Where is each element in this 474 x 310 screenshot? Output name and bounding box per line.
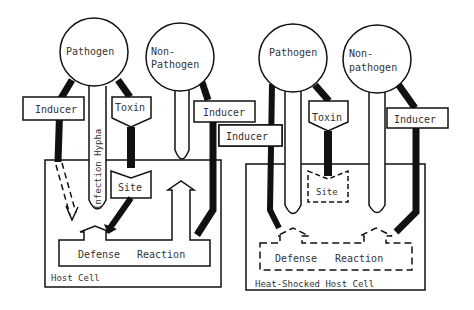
nonpathogen-circle-right — [343, 25, 411, 93]
pathogen-label-right: Pathogen — [269, 47, 317, 58]
inducer-label-right: Inducer — [203, 107, 245, 118]
nonpathogen-stalk-left — [175, 88, 189, 159]
defense-label-right: Defense — [275, 253, 317, 264]
heat-shocked-cell-label: Heat-Shocked Host Cell — [255, 279, 374, 289]
nonpathogen-label-right-1: Non- — [349, 48, 373, 59]
site-label-left: Site — [118, 182, 142, 193]
nonpathogen-circle-left — [146, 23, 214, 91]
pathogen-circle-right — [259, 24, 327, 92]
inducer-label-middle-overlay: Inducer — [226, 131, 268, 142]
toxin-label-right: Toxin — [312, 112, 342, 123]
reaction-label-right: Reaction — [335, 253, 383, 264]
left-panel: Infection Hypha Pathogen Non- Pathogen I… — [23, 18, 255, 287]
nonpathogen-label-right-2: pathogen — [349, 62, 397, 73]
site-label-right: Site — [316, 187, 338, 197]
hypha-label: Infection Hypha — [93, 129, 103, 210]
pathogen-defense-diagram: Infection Hypha Pathogen Non- Pathogen I… — [0, 0, 474, 310]
nonpathogen-label-left-1: Non- — [151, 46, 175, 57]
toxin-label-left: Toxin — [115, 102, 145, 113]
inducer-strand-left — [58, 80, 72, 162]
reaction-label-left: Reaction — [137, 249, 185, 260]
inducer-label-left: Inducer — [35, 104, 77, 115]
defense-label-left: Defense — [78, 249, 120, 260]
right-panel: Inducer Pathogen Toxin Site Non- pathoge… — [219, 24, 448, 290]
nonpathogen-label-left-2: Pathogen — [151, 59, 199, 70]
inducer-label-right-panel: Inducer — [394, 114, 436, 125]
nonpathogen-stalk-right — [369, 90, 385, 213]
pathogen-label-left: Pathogen — [66, 46, 114, 57]
host-cell-label: Host Cell — [51, 273, 100, 283]
toxin-strand — [118, 80, 130, 97]
hypha-right — [285, 88, 301, 214]
